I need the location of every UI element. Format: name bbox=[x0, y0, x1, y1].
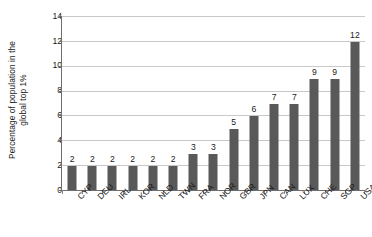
x-tick-label-LUX: LUX bbox=[298, 195, 304, 201]
bar-value-label-GBR: 5 bbox=[231, 118, 236, 127]
bar-value-label-CAN: 7 bbox=[272, 93, 277, 102]
x-tick-label-TWN: TWN bbox=[177, 195, 183, 201]
x-tick-label-KOR: KOR bbox=[137, 195, 143, 201]
bar-TWN[interactable]: 2 bbox=[163, 16, 183, 190]
x-tick-label-FRA: FRA bbox=[197, 195, 203, 201]
bar-LUX[interactable]: 7 bbox=[284, 16, 304, 190]
x-tick-label-CAN: CAN bbox=[278, 195, 284, 201]
bar-CYP[interactable]: 2 bbox=[62, 16, 82, 190]
bar-series: 2222223356779912 bbox=[62, 16, 365, 190]
bar-DEU[interactable]: 2 bbox=[82, 16, 102, 190]
bar-USA[interactable]: 12 bbox=[345, 16, 365, 190]
bar-FRA[interactable]: 3 bbox=[183, 16, 203, 190]
x-tick-label-GBR: GBR bbox=[238, 195, 244, 201]
bar-JPN[interactable]: 6 bbox=[244, 16, 264, 190]
x-tick-label-IRL: IRL bbox=[117, 195, 123, 201]
bar-value-label-DEU: 2 bbox=[90, 155, 95, 164]
bar-IRL[interactable]: 2 bbox=[102, 16, 122, 190]
bar-rect-CYP bbox=[68, 166, 77, 190]
bar-KOR[interactable]: 2 bbox=[123, 16, 143, 190]
bar-value-label-USA: 12 bbox=[350, 31, 360, 40]
x-tick-label-SGP: SGP bbox=[339, 195, 345, 201]
bar-rect-LUX bbox=[290, 104, 299, 190]
bar-value-label-CYP: 2 bbox=[70, 155, 75, 164]
x-tick-label-CHE: CHE bbox=[319, 195, 325, 201]
bar-rect-KOR bbox=[128, 166, 137, 190]
bar-value-label-JPN: 6 bbox=[252, 105, 257, 114]
bar-value-label-KOR: 2 bbox=[130, 155, 135, 164]
x-tick-mark-0 bbox=[62, 190, 63, 194]
plot-area: 2222223356779912 bbox=[62, 16, 365, 190]
bar-value-label-CHE: 9 bbox=[312, 68, 317, 77]
bar-rect-USA bbox=[350, 42, 359, 190]
bar-value-label-IRL: 2 bbox=[110, 155, 115, 164]
x-tick-label-JPN: JPN bbox=[258, 195, 264, 201]
bar-rect-CHE bbox=[310, 79, 319, 190]
bar-rect-SGP bbox=[330, 79, 339, 190]
bar-value-label-FRA: 3 bbox=[191, 143, 196, 152]
bar-CAN[interactable]: 7 bbox=[264, 16, 284, 190]
bar-value-label-NLD: 2 bbox=[151, 155, 156, 164]
bar-chart: Percentage of population in the global t… bbox=[0, 0, 372, 237]
x-tick-label-USA: USA bbox=[359, 195, 365, 201]
y-axis-title-line-1: Percentage of population in the bbox=[7, 41, 18, 159]
y-axis-title: Percentage of population in the global t… bbox=[0, 0, 34, 200]
x-axis-labels: CYPDEUIRLKORNLDTWNFRANORGBRJPNCANLUXCHES… bbox=[62, 195, 365, 237]
y-axis-title-line-2: global top 1% bbox=[17, 41, 28, 159]
x-tick-label-NLD: NLD bbox=[157, 195, 163, 201]
bar-SGP[interactable]: 9 bbox=[325, 16, 345, 190]
bar-value-label-TWN: 2 bbox=[171, 155, 176, 164]
y-axis-ticks: 02468101214 bbox=[34, 16, 62, 190]
bar-rect-CAN bbox=[270, 104, 279, 190]
bar-rect-JPN bbox=[249, 116, 258, 190]
x-tick-label-DEU: DEU bbox=[96, 195, 102, 201]
x-tick-label-CYP: CYP bbox=[76, 195, 82, 201]
bar-value-label-LUX: 7 bbox=[292, 93, 297, 102]
bar-value-label-SGP: 9 bbox=[332, 68, 337, 77]
x-tick-label-NOR: NOR bbox=[218, 195, 224, 201]
bar-NLD[interactable]: 2 bbox=[143, 16, 163, 190]
bar-CHE[interactable]: 9 bbox=[304, 16, 324, 190]
bar-NOR[interactable]: 3 bbox=[203, 16, 223, 190]
bar-GBR[interactable]: 5 bbox=[224, 16, 244, 190]
bar-value-label-NOR: 3 bbox=[211, 143, 216, 152]
